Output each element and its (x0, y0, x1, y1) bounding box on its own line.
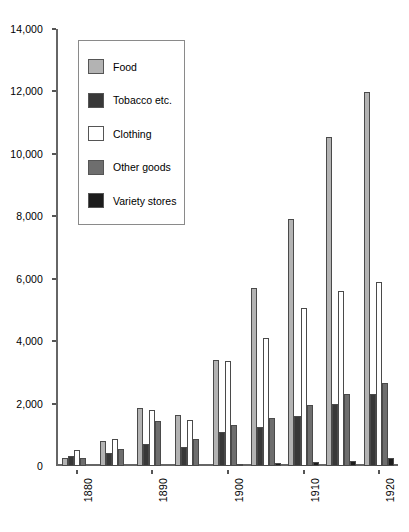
bar (313, 462, 319, 466)
x-axis-tick-label: 1880 (82, 478, 94, 502)
bar (237, 464, 243, 466)
bar (275, 463, 281, 466)
y-axis-tick-label: 12,000 (10, 85, 43, 97)
x-axis-tick-mark (378, 470, 380, 474)
x-axis-tick-mark (151, 470, 153, 474)
x-axis: 18801890190019101920 (58, 470, 398, 532)
x-axis-tick-label: 1900 (233, 478, 245, 502)
legend-item[interactable]: Food (79, 50, 184, 84)
bar-group (251, 29, 281, 466)
legend-swatch-icon (88, 93, 104, 108)
bar-group (288, 29, 318, 466)
legend-item-label: Food (113, 61, 137, 73)
legend-item-label: Clothing (113, 128, 152, 140)
x-axis-tick-mark (76, 470, 78, 474)
bar (350, 461, 356, 466)
x-axis-tick-label: 1920 (384, 478, 396, 502)
legend-item-label: Other goods (113, 161, 171, 173)
bar (118, 449, 124, 466)
x-axis-tick-label: 1890 (157, 478, 169, 502)
y-axis-tick-label: 6,000 (16, 273, 43, 285)
chart-legend: FoodTobacco etc.ClothingOther goodsVarie… (78, 40, 185, 225)
y-axis-tick-label: 2,000 (16, 398, 43, 410)
bar (344, 394, 350, 466)
y-axis-tick-label: 14,000 (10, 23, 43, 35)
legend-swatch-icon (88, 59, 104, 74)
legend-item[interactable]: Tobacco etc. (79, 84, 184, 118)
bar (382, 383, 388, 466)
legend-swatch-icon (88, 193, 104, 208)
x-axis-tick-mark (303, 470, 305, 474)
bar (231, 425, 237, 466)
legend-item[interactable]: Clothing (79, 117, 184, 151)
legend-item-label: Tobacco etc. (113, 94, 172, 106)
bar-group (326, 29, 356, 466)
bar (80, 458, 86, 466)
bar (155, 421, 161, 466)
legend-item-label: Variety stores (113, 195, 176, 207)
bar-group (213, 29, 243, 466)
y-axis-tick-label: 8,000 (16, 210, 43, 222)
y-axis-tick-label: 0 (37, 460, 43, 472)
x-axis-tick-label: 1910 (309, 478, 321, 502)
x-axis-tick-mark (227, 470, 229, 474)
bar-chart: 02,0004,0006,0008,00010,00012,00014,000 … (0, 0, 409, 532)
legend-item[interactable]: Other goods (79, 151, 184, 185)
legend-swatch-icon (88, 160, 104, 175)
y-axis-tick-label: 4,000 (16, 335, 43, 347)
legend-item[interactable]: Variety stores (79, 184, 184, 218)
bar (269, 418, 275, 466)
y-axis: 02,0004,0006,0008,00010,00012,00014,000 (0, 0, 52, 532)
bar (307, 405, 313, 466)
bar (193, 439, 199, 466)
bar (388, 458, 394, 466)
bar-group (364, 29, 394, 466)
y-axis-tick-label: 10,000 (10, 148, 43, 160)
legend-swatch-icon (88, 126, 104, 141)
